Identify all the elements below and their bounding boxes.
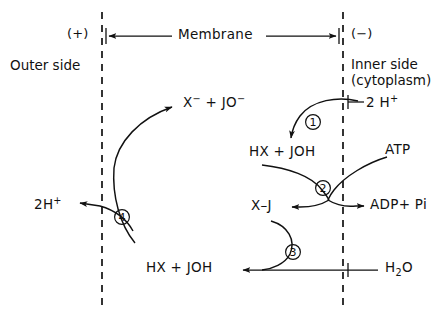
step-2-number: 2 [320,182,327,195]
species-atp: ATP [385,142,410,157]
proton-outer-superscript: + [53,195,61,206]
species-water: H2O [385,260,413,275]
inner-side-label-line1: Inner side [351,57,418,72]
diagram-vector-layer [0,0,446,324]
species-two-protons-outer: 2H+ [34,197,62,212]
species-jo-base: + JO [201,94,237,110]
membrane-title: Membrane [178,27,253,42]
species-x-base: X [183,94,193,110]
step-3-number: 3 [290,246,297,259]
step-4-number: 4 [119,211,126,224]
water-h: H [385,259,395,275]
inner-side-label-line2: (cytoplasm) [351,73,431,88]
step-1-number: 1 [310,116,317,129]
species-x-superscript: − [193,93,201,104]
membrane-transport-diagram: (+) Membrane (−) Outer side Inner side (… [0,0,446,324]
species-jo-superscript: − [237,93,245,104]
species-hx-joh-upper: HX + JOH [249,144,315,159]
species-x-minus-jo-minus: X− + JO− [183,95,245,110]
proton-inner-base: 2 H [366,94,390,110]
species-adp-pi: ADP+ Pi [370,197,427,212]
species-two-protons-inner: 2 H+ [366,95,398,110]
step2-arrow-to-xj [292,200,329,207]
water-o: O [402,259,413,275]
polarity-minus-label: (−) [351,27,373,42]
proton-outer-base: 2H [34,196,53,212]
proton-inner-superscript: + [390,93,398,104]
step2-curve-atp [328,157,387,200]
outer-side-label: Outer side [10,58,80,73]
species-hx-joh-lower: HX + JOH [146,260,212,275]
polarity-plus-label: (+) [67,27,89,42]
step3-curve-xj [262,221,292,270]
step2-arrow-to-adp [328,200,364,206]
species-x-j: X–J [251,198,272,213]
